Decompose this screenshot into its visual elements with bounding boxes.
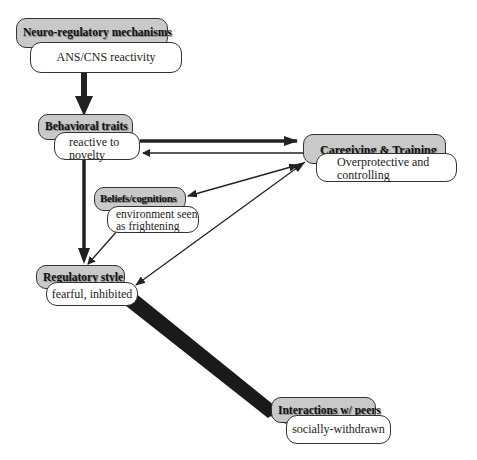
- node-beliefs-line2: as frightening: [116, 221, 198, 233]
- node-regulatory-text: fearful, inhibited: [46, 282, 138, 306]
- node-behavioral-line2: novelty: [69, 149, 139, 162]
- node-caregiving-text: Overprotective and controlling: [316, 153, 457, 182]
- arrow-regulatory-to-peers: [116, 292, 286, 424]
- node-beliefs-text: environment seen as frightening: [107, 206, 199, 233]
- arrow-neuro-to-behavioral: [75, 73, 93, 116]
- arrow-beliefs-to-regulatory: [88, 230, 118, 264]
- node-caregiving-line2: controlling: [337, 169, 456, 182]
- node-neuro-text: ANS/CNS reactivity: [30, 42, 182, 73]
- node-peers-text: socially-withdrawn: [286, 415, 391, 444]
- node-beliefs-line1: environment seen: [116, 209, 198, 221]
- arrow-behavioral-to-regulatory: [78, 160, 90, 264]
- node-behavioral-text: reactive to novelty: [54, 132, 140, 160]
- arrow-caregiving-beliefs: [188, 165, 298, 196]
